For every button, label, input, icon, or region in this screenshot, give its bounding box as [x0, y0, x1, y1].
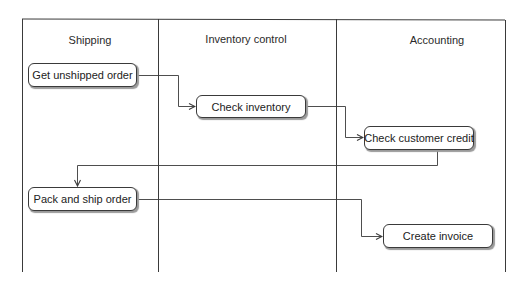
node-check-customer-credit[interactable]: Check customer credit [364, 126, 474, 150]
edge-n2-n3 [306, 107, 363, 138]
lane-title-inventory-control: Inventory control [140, 33, 352, 45]
swimlane-diagram: Shipping Inventory control Accounting Ge… [0, 0, 528, 286]
lane-title-shipping: Shipping [22, 34, 158, 46]
node-check-inventory[interactable]: Check inventory [196, 95, 306, 118]
edge-n3-n4 [78, 149, 438, 186]
node-get-unshipped-order[interactable]: Get unshipped order [28, 63, 137, 87]
frame-top-border [22, 19, 505, 20]
edge-n4-n5 [137, 200, 382, 237]
edge-n1-n2 [137, 76, 195, 107]
node-pack-and-ship-order[interactable]: Pack and ship order [28, 187, 137, 211]
lane-title-accounting: Accounting [336, 34, 528, 46]
node-create-invoice[interactable]: Create invoice [383, 224, 493, 248]
